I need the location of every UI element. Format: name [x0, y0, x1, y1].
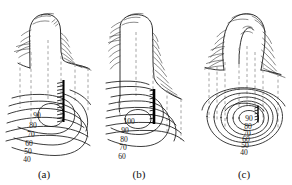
panel-b: 100 90 80 70 60 (b)	[98, 0, 195, 185]
contour-label-a-90: 90	[33, 111, 41, 120]
plume-hatching-a	[15, 13, 92, 70]
contours-a	[6, 90, 91, 156]
contour-label-b-60: 60	[118, 152, 126, 161]
front-symbol-b	[150, 89, 154, 124]
plume-outline-c	[205, 14, 281, 75]
figure-contour-panels: 90 80 70 60 50 40 (a)	[0, 0, 292, 185]
front-symbol-a	[58, 80, 64, 122]
plume-outline-b	[119, 15, 181, 112]
panel-a: 90 80 70 60 50 40 (a)	[0, 0, 98, 185]
panel-caption-b: (b)	[133, 168, 146, 181]
panel-caption-c: (c)	[238, 168, 251, 181]
contour-label-b-100: 100	[123, 117, 135, 126]
panel-caption-a: (a)	[38, 168, 51, 181]
contour-label-a-40: 40	[23, 155, 31, 164]
contours-b	[106, 81, 184, 146]
contour-label-c-40: 40	[240, 148, 248, 157]
contour-label-a-80: 80	[29, 121, 37, 130]
panel-c: 90 80 70 60 50 40 (c)	[195, 0, 292, 185]
